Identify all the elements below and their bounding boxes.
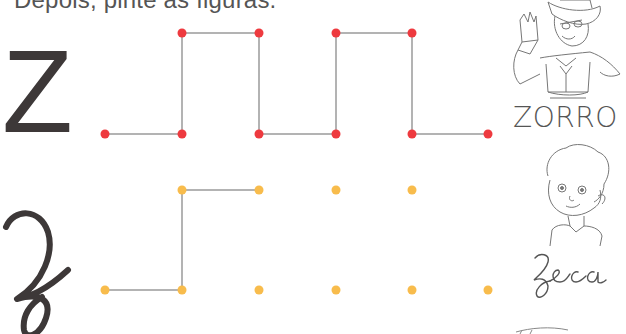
next-illustration-partial bbox=[0, 0, 626, 334]
